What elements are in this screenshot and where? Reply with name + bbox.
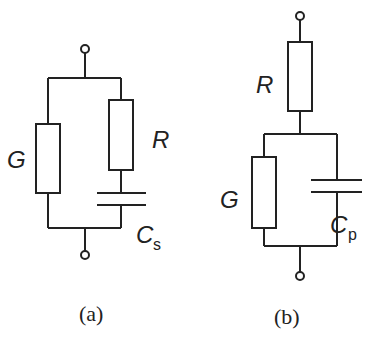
resistor-a-G (36, 124, 60, 193)
resistor-b-G (252, 157, 276, 228)
terminal-a-top (81, 45, 89, 53)
caption-b: (b) (274, 304, 300, 329)
circuit-diagram: G R C s (a) R G C p (b) (0, 0, 381, 337)
circuit-a: G R C s (a) (7, 45, 169, 326)
circuit-b: R G C p (b) (220, 12, 362, 329)
terminal-a-bottom (81, 251, 89, 259)
resistor-a-R (109, 100, 133, 170)
label-b-C-subscript: p (348, 226, 357, 243)
label-b-R: R (256, 71, 273, 98)
terminal-b-top (296, 12, 304, 20)
caption-a: (a) (79, 301, 103, 326)
label-b-C: C (330, 211, 348, 238)
label-b-G: G (220, 186, 239, 213)
label-a-C-subscript: s (153, 236, 161, 253)
label-a-C: C (136, 221, 154, 248)
label-a-R: R (152, 126, 169, 153)
terminal-b-bottom (296, 272, 304, 280)
label-a-G: G (7, 146, 26, 173)
resistor-b-R (288, 42, 312, 111)
